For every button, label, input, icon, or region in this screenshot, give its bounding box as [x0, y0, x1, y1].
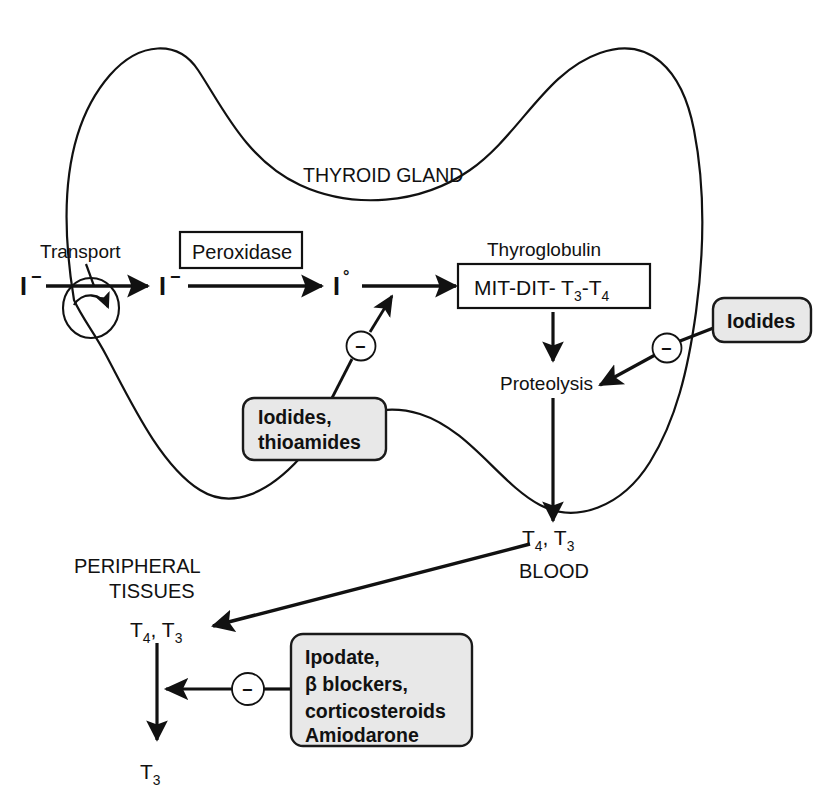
- transport-label: Transport: [40, 241, 121, 262]
- inhibit-proteolysis-marker: −: [600, 327, 716, 385]
- inhibit-peroxidase-arrow: [370, 296, 392, 332]
- inhibit-proteolysis-arrow: [600, 355, 655, 385]
- peripheral-product: T3: [140, 760, 161, 788]
- drug-box-peripheral-line-4: Amiodarone: [305, 724, 419, 746]
- thyroid-pathway-diagram: THYROID GLAND I − Transport I − Peroxida…: [0, 0, 839, 804]
- peripheral-hormones-label: T4, T3: [130, 618, 183, 646]
- iodide-extracellular-charge: −: [31, 267, 42, 287]
- peroxidase-label: Peroxidase: [192, 241, 292, 263]
- drug-box-iodides-thioamides-line-2: thioamides: [258, 431, 361, 453]
- inhibit-peroxidase-symbol: −: [355, 337, 366, 357]
- inhibit-proteolysis-symbol: −: [661, 339, 672, 359]
- thyroglobulin-label: Thyroglobulin: [487, 239, 601, 260]
- transport-rotation-arrow: [74, 295, 108, 307]
- gland-title: THYROID GLAND: [303, 164, 463, 186]
- proteolysis-label: Proteolysis: [500, 373, 593, 394]
- iodine-atomic-charge: °: [343, 268, 349, 285]
- peripheral-title-line-1: PERIPHERAL: [74, 555, 201, 577]
- blood-hormones: T4, T3: [522, 526, 575, 554]
- inhibit-peroxidase-stem: [332, 359, 352, 398]
- transport-leader-line: [86, 264, 94, 286]
- blood-compartment-label: BLOOD: [519, 560, 589, 582]
- drug-box-peripheral-line-2: β blockers,: [305, 673, 408, 695]
- drug-box-peripheral-line-1: Ipodate,: [305, 646, 380, 668]
- iodide-intracellular: I −: [159, 267, 181, 300]
- drug-box-iodides-thioamides[interactable]: Iodides, thioamides: [243, 398, 386, 460]
- drug-box-iodides-thioamides-line-1: Iodides,: [258, 406, 332, 428]
- inhibit-peripheral-conversion-marker: −: [166, 673, 292, 705]
- iodine-atomic: I °: [333, 268, 349, 300]
- drug-box-iodides-label: Iodides: [727, 310, 795, 332]
- peripheral-product-label: T3: [140, 760, 161, 788]
- iodide-extracellular: I −: [20, 267, 42, 300]
- mit-dit-box: MIT-DIT- T3-T4: [458, 264, 650, 308]
- diagram-svg: THYROID GLAND I − Transport I − Peroxida…: [0, 0, 839, 804]
- inhibit-proteolysis-stem: [680, 327, 716, 341]
- iodine-atomic-symbol: I: [333, 272, 340, 300]
- inhibit-peroxidase-marker: −: [332, 296, 392, 398]
- peripheral-title-line-2: TISSUES: [109, 580, 195, 602]
- iodide-extracellular-symbol: I: [20, 272, 27, 300]
- blood-hormones-label: T4, T3: [522, 526, 575, 554]
- drug-box-peripheral-line-3: corticosteroids: [305, 700, 446, 722]
- iodide-intracellular-symbol: I: [159, 272, 166, 300]
- inhibit-peripheral-symbol: −: [242, 680, 253, 700]
- drug-box-peripheral-drugs[interactable]: Ipodate, β blockers, corticosteroids Ami…: [291, 634, 472, 746]
- distribution-arrow: [213, 544, 530, 626]
- iodide-intracellular-charge: −: [170, 267, 181, 287]
- peroxidase-box: Peroxidase: [180, 232, 302, 268]
- drug-box-iodides[interactable]: Iodides: [713, 298, 811, 342]
- peripheral-hormones: T4, T3: [130, 618, 183, 646]
